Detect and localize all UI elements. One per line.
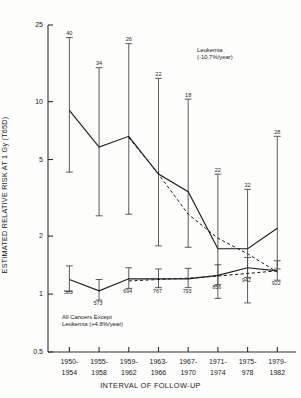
chart-figure: ESTIMATED RELATIVE RISK AT 1 Gy (T65D) I… — [0, 0, 301, 398]
y-tick-label: 5 — [21, 156, 43, 163]
x-tick-line2: 1974 — [210, 369, 226, 376]
case-count-label: 22 — [148, 71, 168, 77]
x-tick-line1: 1959- — [120, 358, 138, 365]
x-tick-line2: 1954 — [62, 369, 78, 376]
x-tick-line1: 1971- — [209, 358, 227, 365]
annotation-leukemia: Leukemia (-10.7%/year) — [197, 47, 233, 62]
y-tick-label: 2 — [21, 232, 43, 239]
case-count-label: 793 — [183, 288, 192, 294]
case-count-label: 40 — [59, 30, 79, 36]
case-count-label: 18 — [178, 92, 198, 98]
case-count-label: 32 — [238, 182, 258, 188]
plot-area — [0, 0, 301, 398]
x-tick-line1: 1950- — [60, 358, 78, 365]
annotation-all-cancers-line1: All Cancers Except — [62, 314, 123, 321]
y-tick-label: 25 — [21, 21, 43, 28]
case-count-label: 503 — [64, 289, 73, 295]
case-count-label: 942 — [242, 277, 251, 283]
annotation-leukemia-line2: (-10.7%/year) — [197, 54, 233, 61]
x-tick-line2: 1962 — [121, 369, 137, 376]
y-tick-marks — [48, 25, 53, 352]
x-tick-line2: 1970 — [180, 369, 196, 376]
x-tick-line1: 1979- — [268, 358, 286, 365]
annotation-all-cancers: All Cancers Except Leukemia (+4.8%/year) — [62, 314, 123, 329]
x-tick-line1: 1963- — [150, 358, 168, 365]
annotation-all-cancers-line2: Leukemia (+4.8%/year) — [62, 321, 123, 328]
annotation-leukemia-line1: Leukemia — [197, 47, 233, 54]
case-count-label: 26 — [119, 36, 139, 42]
y-tick-label: 10 — [21, 98, 43, 105]
y-tick-label: 0.5 — [21, 348, 43, 355]
x-tick-marks — [69, 347, 277, 352]
x-tick-line1: 1955- — [90, 358, 108, 365]
case-count-label: 922 — [272, 280, 281, 286]
x-tick-line2: 978 — [242, 369, 254, 376]
x-tick-line2: 1958 — [91, 369, 107, 376]
x-tick-line2: 1966 — [151, 369, 167, 376]
case-count-label: 573 — [94, 300, 103, 306]
case-count-label: 694 — [123, 288, 132, 294]
case-count-label: 856 — [212, 284, 221, 290]
x-tick-line1: 1967- — [179, 358, 197, 365]
x-tick-label: 1979-1982 — [257, 357, 297, 378]
error-bars — [66, 38, 281, 303]
case-count-label: 28 — [267, 129, 287, 135]
case-count-label: 22 — [208, 167, 228, 173]
axes — [48, 25, 296, 352]
y-tick-label: 1 — [21, 290, 43, 297]
data-lines — [69, 110, 277, 290]
x-tick-line1: 1975- — [239, 358, 257, 365]
case-count-label: 34 — [89, 60, 109, 66]
x-tick-line2: 1982 — [269, 369, 285, 376]
case-count-label: 767 — [153, 288, 162, 294]
